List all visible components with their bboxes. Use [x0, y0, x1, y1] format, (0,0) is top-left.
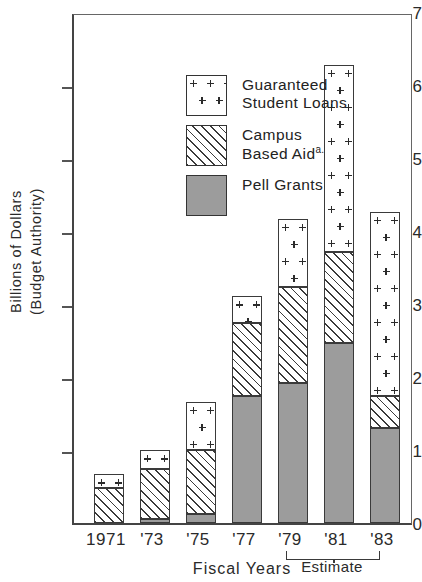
bar-segment-pell-grants-83 — [370, 428, 400, 523]
bar-segment-campus-based-aid-1971 — [94, 488, 124, 523]
bar-segment-campus-based-aid-77 — [232, 323, 262, 396]
plus-pattern-fill — [95, 475, 123, 487]
legend-item-campus-based-aid: Campus Based Aida. — [186, 125, 347, 166]
plus-pattern-fill — [371, 213, 399, 395]
bar-segment-campus-based-aid-75 — [186, 450, 216, 514]
bar-83[interactable] — [370, 212, 400, 523]
legend-item-pell-grants: Pell Grants — [186, 175, 347, 216]
bar-segment-guaranteed-student-loans-79 — [278, 219, 308, 287]
bar-segment-pell-grants-77 — [232, 396, 262, 523]
x-tick-label-83: '83 — [356, 531, 408, 548]
bar-segment-guaranteed-student-loans-1971 — [94, 474, 124, 488]
bar-segment-campus-based-aid-81 — [324, 252, 354, 344]
y-axis-title: Billions of Dollars (Budget Authority) — [7, 137, 46, 367]
bar-segment-pell-grants-81 — [324, 343, 354, 523]
bar-segment-guaranteed-student-loans-73 — [140, 450, 170, 469]
bar-segment-guaranteed-student-loans-77 — [232, 296, 262, 323]
plus-pattern-fill — [187, 403, 215, 450]
bar-segment-campus-based-aid-73 — [140, 469, 170, 519]
legend-footnote-marker: a. — [315, 144, 324, 155]
legend-label-pell-grants: Pell Grants — [242, 175, 323, 194]
plus-pattern-fill — [279, 220, 307, 286]
legend-swatch-diagonal-hatch-icon — [186, 125, 227, 166]
plus-pattern-fill — [233, 297, 261, 322]
legend-label-campus-text: Campus Based Aid — [242, 126, 315, 162]
x-tick-label-81: '81 — [310, 531, 362, 548]
bar-79[interactable] — [278, 219, 308, 523]
x-tick-label-73: '73 — [126, 531, 178, 548]
bar-segment-pell-grants-79 — [278, 383, 308, 523]
x-tick-label-77: '77 — [218, 531, 270, 548]
bar-segment-guaranteed-student-loans-75 — [186, 402, 216, 451]
chart-canvas: Billions of Dollars (Budget Authority) 7… — [0, 0, 422, 582]
legend-label-campus-based-aid: Campus Based Aida. — [242, 125, 325, 164]
bar-75[interactable] — [186, 402, 216, 523]
bar-segment-campus-based-aid-79 — [278, 287, 308, 384]
bar-73[interactable] — [140, 450, 170, 523]
bar-1971[interactable] — [94, 474, 124, 523]
plot-area: Guaranteed Student Loans Campus Based Ai… — [72, 14, 412, 525]
bar-segment-guaranteed-student-loans-83 — [370, 212, 400, 396]
x-tick-label-79: '79 — [264, 531, 316, 548]
chart-legend: Guaranteed Student Loans Campus Based Ai… — [186, 75, 347, 225]
plus-pattern-fill — [141, 451, 169, 468]
bar-77[interactable] — [232, 296, 262, 523]
legend-label-guaranteed-student-loans: Guaranteed Student Loans — [242, 75, 347, 113]
bar-segment-campus-based-aid-83 — [370, 396, 400, 429]
legend-swatch-plus-dots-icon — [186, 75, 227, 116]
legend-item-guaranteed-student-loans: Guaranteed Student Loans — [186, 75, 347, 116]
x-axis-title: Fiscal Years — [72, 560, 412, 578]
legend-swatch-solid-gray-icon — [186, 175, 227, 216]
bar-segment-pell-grants-73 — [140, 519, 170, 523]
bar-segment-pell-grants-75 — [186, 514, 216, 523]
x-tick-label-75: '75 — [172, 531, 224, 548]
